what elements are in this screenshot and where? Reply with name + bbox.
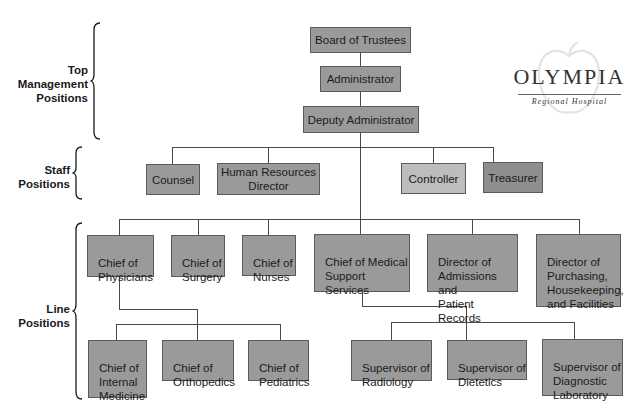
connector-line — [172, 147, 173, 164]
connector-line — [391, 322, 392, 340]
box-chief-of-orthopedics: Chief of Orthopedics — [162, 340, 234, 381]
connector-line — [574, 322, 575, 339]
box-director-of-admissions: Director of Admissions and Patient Recor… — [427, 234, 518, 292]
group-label-staff: Staff Positions — [10, 163, 70, 191]
box-deputy-administrator: Deputy Administrator — [303, 106, 419, 133]
box-label: Supervisor of Radiology — [362, 362, 430, 388]
connector-line — [116, 324, 117, 340]
group-label-top-management: Top Management Positions — [10, 63, 88, 105]
logo-divider — [518, 94, 621, 95]
box-human-resources-director: Human Resources Director — [217, 163, 320, 195]
connector-line — [472, 219, 473, 235]
connector-line — [360, 91, 361, 107]
box-label: Deputy Administrator — [308, 113, 415, 127]
group-label-line: Line Positions — [10, 302, 70, 330]
connector-line — [579, 219, 580, 235]
box-label: Counsel — [152, 173, 194, 187]
connector-line — [197, 309, 198, 341]
box-chief-of-pediatrics: Chief of Pediatrics — [248, 340, 309, 381]
connector-line — [280, 324, 281, 340]
box-label: Director of Purchasing, Housekeeping, an… — [547, 256, 624, 310]
brace-staff-icon — [72, 146, 84, 200]
box-label: Chief of Pediatrics — [259, 362, 310, 388]
box-label: Controller — [409, 172, 459, 186]
box-chief-of-surgery: Chief of Surgery — [171, 235, 225, 277]
box-director-of-purchasing: Director of Purchasing, Housekeeping, an… — [536, 234, 621, 307]
box-label: Chief of Surgery — [182, 257, 222, 283]
box-controller: Controller — [401, 163, 466, 194]
connector-line — [268, 147, 269, 164]
connector-line — [268, 219, 269, 235]
box-label: Supervisor of Diagnostic Laboratory — [553, 361, 621, 401]
box-label: Administrator — [327, 72, 395, 86]
connector-line — [119, 219, 120, 235]
connector-line — [116, 324, 280, 325]
connector-line — [119, 309, 197, 310]
box-chief-of-physicians: Chief of Physicians — [87, 235, 154, 277]
box-label: Chief of Orthopedics — [173, 362, 235, 388]
connector-line — [391, 322, 574, 323]
box-label: Human Resources Director — [221, 165, 316, 193]
box-supervisor-of-radiology: Supervisor of Radiology — [351, 340, 432, 381]
brace-line-icon — [72, 222, 84, 400]
logo-subtitle: Regional Hospital — [512, 97, 627, 106]
box-label: Treasurer — [488, 171, 537, 185]
box-supervisor-of-diagnostic-laboratory: Supervisor of Diagnostic Laboratory — [542, 339, 623, 396]
box-label: Supervisor of Dietetics — [458, 362, 526, 388]
box-label: Board of Trustees — [315, 33, 406, 47]
box-treasurer: Treasurer — [483, 162, 543, 193]
box-label: Chief of Internal Medicine — [99, 362, 145, 402]
connector-line — [119, 219, 579, 220]
connector-line — [198, 219, 199, 235]
box-administrator: Administrator — [320, 66, 401, 92]
box-counsel: Counsel — [146, 164, 200, 195]
box-label: Chief of Physicians — [98, 257, 153, 283]
logo-title: OLYMPIA — [512, 64, 627, 90]
olympia-logo: OLYMPIA Regional Hospital — [512, 64, 627, 114]
box-chief-of-nurses: Chief of Nurses — [242, 235, 296, 276]
box-chief-of-internal-medicine: Chief of Internal Medicine — [88, 340, 147, 398]
connector-line — [172, 147, 493, 148]
connector-line — [433, 147, 434, 164]
box-label: Chief of Medical Support Services — [325, 256, 407, 296]
box-chief-of-medical-support-services: Chief of Medical Support Services — [314, 234, 410, 292]
connector-line — [360, 52, 361, 66]
box-supervisor-of-dietetics: Supervisor of Dietetics — [447, 340, 527, 380]
box-label: Chief of Nurses — [253, 257, 293, 283]
connector-line — [360, 132, 361, 249]
box-board-of-trustees: Board of Trustees — [310, 27, 411, 53]
brace-top-management-icon — [90, 22, 102, 140]
box-label: Director of Admissions and Patient Recor… — [438, 256, 497, 324]
